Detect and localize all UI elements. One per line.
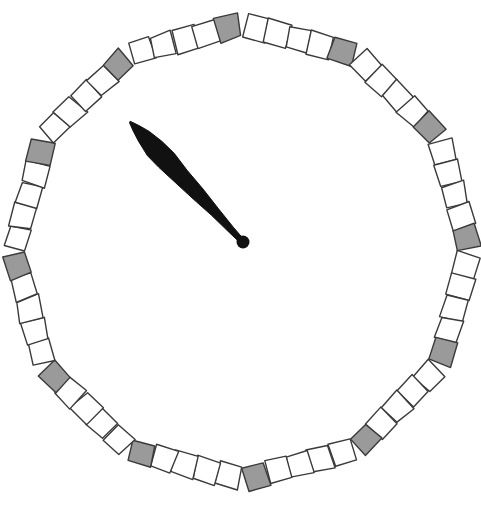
hand-pivot[interactable]	[237, 236, 250, 249]
hour-marker-cell	[26, 139, 56, 165]
clock-face-svg	[0, 0, 481, 513]
background	[0, 0, 481, 513]
clock-stage	[0, 0, 481, 513]
